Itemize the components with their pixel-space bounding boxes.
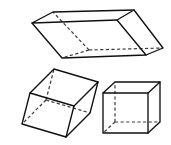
solids-illustration: Oblique and right prisms [0, 0, 171, 145]
shape-oblique-rectangular-prism-left [22, 69, 98, 137]
shape-right-rectangular-prism-cube [103, 82, 160, 133]
shape-oblique-rectangular-prism-top [32, 10, 163, 58]
geometry-figure-canvas: Oblique and right prisms [0, 0, 171, 145]
